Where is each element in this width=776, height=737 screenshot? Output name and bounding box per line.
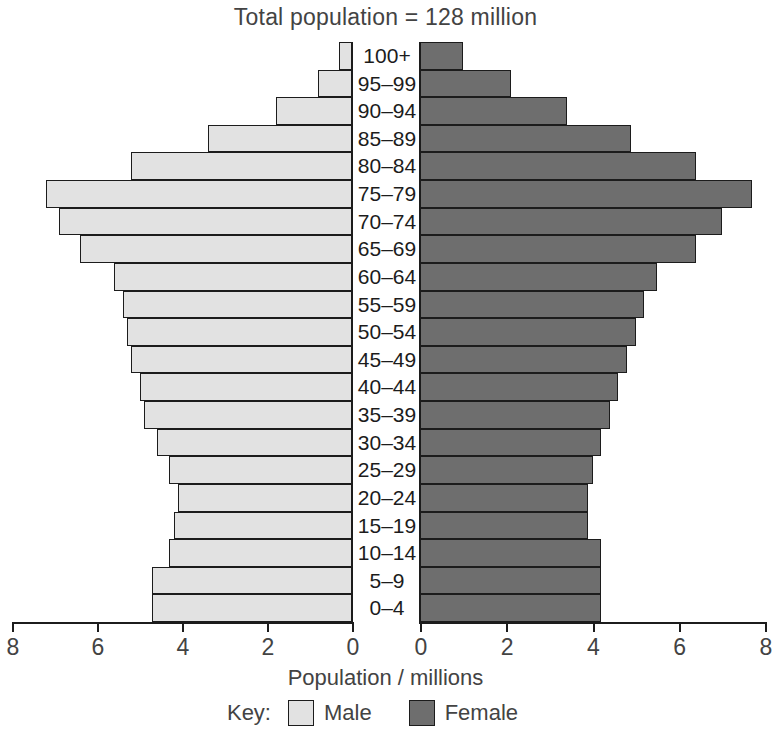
bar-male-75–79: [46, 180, 352, 208]
bar-female-85–89: [420, 125, 631, 153]
bar-female-5–9: [420, 567, 601, 595]
bar-female-75–79: [420, 180, 752, 208]
bar-female-100+: [420, 42, 463, 70]
bar-female-90–94: [420, 97, 567, 125]
bar-female-80–84: [420, 152, 696, 180]
age-label-20–24: 20–24: [353, 484, 421, 512]
bar-female-45–49: [420, 346, 627, 374]
tick-female-0: [420, 622, 422, 632]
legend-label-male: Male: [324, 700, 372, 726]
tick-male-6: [97, 622, 99, 632]
bar-male-35–39: [144, 401, 352, 429]
tick-label-male-2: 2: [248, 634, 288, 661]
bar-male-50–54: [127, 318, 352, 346]
tick-label-male-0: 0: [333, 634, 373, 661]
legend-swatch-male-icon: [288, 700, 314, 726]
legend-label-female: Female: [445, 700, 518, 726]
legend-key-label: Key:: [227, 700, 271, 726]
tick-label-female-4: 4: [574, 634, 614, 661]
bar-male-10–14: [169, 539, 352, 567]
bar-female-35–39: [420, 401, 610, 429]
age-label-95–99: 95–99: [353, 70, 421, 98]
female-bars-group: [420, 42, 771, 622]
age-label-0–4: 0–4: [353, 594, 421, 622]
bar-male-25–29: [169, 456, 352, 484]
male-bars-group: [0, 42, 352, 622]
bar-male-5–9: [152, 567, 352, 595]
bar-male-60–64: [114, 263, 352, 291]
legend-entry-male: Male: [288, 700, 372, 726]
age-label-75–79: 75–79: [353, 180, 421, 208]
tick-female-6: [679, 622, 681, 632]
bar-female-30–34: [420, 429, 601, 457]
bar-male-90–94: [276, 97, 353, 125]
bar-male-0–4: [152, 594, 352, 622]
age-label-50–54: 50–54: [353, 318, 421, 346]
age-label-40–44: 40–44: [353, 373, 421, 401]
bar-female-10–14: [420, 539, 601, 567]
bar-female-70–74: [420, 208, 722, 236]
chart-title: Total population = 128 million: [0, 4, 771, 31]
tick-female-4: [593, 622, 595, 632]
bar-female-65–69: [420, 235, 696, 263]
tick-male-2: [267, 622, 269, 632]
tick-label-female-0: 0: [401, 634, 441, 661]
bar-male-100+: [339, 42, 352, 70]
age-label-65–69: 65–69: [353, 235, 421, 263]
chart-legend: Key: Male Female: [0, 700, 771, 726]
tick-label-male-6: 6: [78, 634, 118, 661]
tick-male-0: [352, 622, 354, 632]
bar-male-45–49: [131, 346, 352, 374]
bar-female-40–44: [420, 373, 618, 401]
bar-male-20–24: [178, 484, 352, 512]
bar-female-60–64: [420, 263, 657, 291]
bar-male-65–69: [80, 235, 352, 263]
bar-female-95–99: [420, 70, 511, 98]
x-axis-label: Population / millions: [0, 665, 771, 691]
age-label-5–9: 5–9: [353, 567, 421, 595]
tick-label-female-8: 8: [746, 634, 776, 661]
tick-label-male-4: 4: [163, 634, 203, 661]
tick-label-female-6: 6: [660, 634, 700, 661]
bar-male-15–19: [174, 512, 353, 540]
tick-female-8: [765, 622, 767, 632]
legend-swatch-female-icon: [409, 700, 435, 726]
bar-female-55–59: [420, 291, 644, 319]
age-label-80–84: 80–84: [353, 152, 421, 180]
age-label-10–14: 10–14: [353, 539, 421, 567]
bar-male-95–99: [318, 70, 352, 98]
bar-male-55–59: [123, 291, 353, 319]
legend-entry-female: Female: [409, 700, 518, 726]
age-label-35–39: 35–39: [353, 401, 421, 429]
tick-male-8: [12, 622, 14, 632]
tick-label-female-2: 2: [487, 634, 527, 661]
bar-male-80–84: [131, 152, 352, 180]
tick-female-2: [506, 622, 508, 632]
bar-male-70–74: [59, 208, 352, 236]
bar-female-25–29: [420, 456, 593, 484]
bar-female-15–19: [420, 512, 588, 540]
bar-female-20–24: [420, 484, 588, 512]
age-label-55–59: 55–59: [353, 291, 421, 319]
age-label-45–49: 45–49: [353, 346, 421, 374]
age-label-60–64: 60–64: [353, 263, 421, 291]
tick-label-male-8: 8: [0, 634, 33, 661]
age-label-70–74: 70–74: [353, 208, 421, 236]
age-label-85–89: 85–89: [353, 125, 421, 153]
age-label-100+: 100+: [353, 42, 421, 70]
bar-male-40–44: [140, 373, 353, 401]
tick-male-4: [182, 622, 184, 632]
bar-male-85–89: [208, 125, 353, 153]
age-group-axis: 100+95–9990–9485–8980–8475–7970–7465–696…: [352, 42, 420, 622]
bar-female-50–54: [420, 318, 636, 346]
age-label-90–94: 90–94: [353, 97, 421, 125]
age-label-30–34: 30–34: [353, 429, 421, 457]
bar-male-30–34: [157, 429, 353, 457]
age-label-25–29: 25–29: [353, 456, 421, 484]
age-label-15–19: 15–19: [353, 512, 421, 540]
bar-female-0–4: [420, 594, 601, 622]
